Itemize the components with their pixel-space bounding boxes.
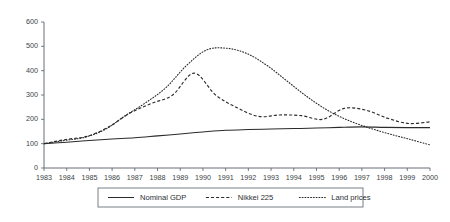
x-tick-label: 1988 — [150, 173, 166, 182]
y-axis: 0100200300400500600 — [26, 17, 44, 172]
y-tick-label: 0 — [34, 163, 38, 172]
x-axis: 1983198419851986198719881989199019911992… — [36, 168, 438, 182]
x-tick-label: 1992 — [240, 173, 256, 182]
x-tick-label: 1999 — [399, 173, 415, 182]
x-tick-label: 1983 — [36, 173, 52, 182]
series-line-nikkei-225 — [44, 73, 430, 144]
x-tick-label: 2000 — [422, 173, 438, 182]
y-tick-label: 200 — [26, 114, 38, 123]
chart-legend: Nominal GDPNikkei 225Land prices — [98, 188, 371, 207]
y-tick-label: 400 — [26, 66, 38, 75]
x-tick-label: 1996 — [331, 173, 347, 182]
x-tick-label: 1991 — [218, 173, 234, 182]
y-tick-label: 300 — [26, 90, 38, 99]
x-tick-label: 1993 — [263, 173, 279, 182]
x-tick-label: 1984 — [59, 173, 75, 182]
x-tick-label: 1989 — [172, 173, 188, 182]
x-tick-label: 1998 — [377, 173, 393, 182]
x-tick-label: 1986 — [104, 173, 120, 182]
legend-label: Land prices — [331, 193, 370, 202]
x-tick-label: 1995 — [308, 173, 324, 182]
y-tick-label: 500 — [26, 41, 38, 50]
chart-container: 0100200300400500600 19831984198519861987… — [0, 0, 450, 222]
x-tick-label: 1997 — [354, 173, 370, 182]
x-tick-label: 1990 — [195, 173, 211, 182]
y-tick-label: 600 — [26, 17, 38, 26]
y-tick-label: 100 — [26, 139, 38, 148]
legend-label: Nikkei 225 — [238, 193, 273, 202]
x-tick-label: 1985 — [81, 173, 97, 182]
legend-label: Nominal GDP — [140, 193, 186, 202]
x-tick-label: 1987 — [127, 173, 143, 182]
x-tick-label: 1994 — [286, 173, 302, 182]
legend-box — [98, 188, 363, 207]
line-chart: 0100200300400500600 19831984198519861987… — [0, 0, 450, 222]
data-series-group — [44, 48, 430, 145]
